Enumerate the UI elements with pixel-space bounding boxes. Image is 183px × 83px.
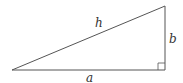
right-angle-marker: [158, 63, 165, 70]
vertical-leg-label: b: [169, 32, 177, 46]
hypotenuse-label: h: [95, 16, 103, 30]
right-triangle-diagram: h b a: [0, 0, 183, 83]
horizontal-leg-label: a: [86, 71, 93, 83]
triangle-outline: [12, 6, 165, 70]
